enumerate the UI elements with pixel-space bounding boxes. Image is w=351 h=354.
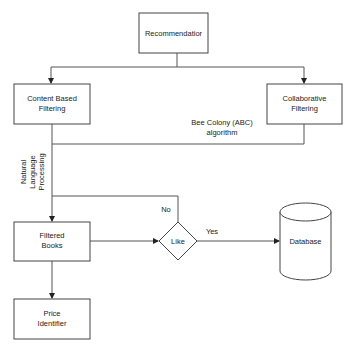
edge-label-nlp-line3: Processing <box>37 153 46 190</box>
node-price-identifier-label-line1: Price <box>43 309 60 318</box>
edge-label-abc: Bee Colony (ABC) algorithm <box>191 118 253 137</box>
node-filtered-books-label-line2: Books <box>42 241 63 250</box>
node-collaborative-label-line1: Collaborative <box>283 94 327 103</box>
edge-label-abc-line2: algorithm <box>207 128 238 137</box>
node-database-label: Database <box>289 237 321 246</box>
node-filtered-books-label-line1: Filtered <box>39 231 64 240</box>
edge-collaborative-to-merge <box>52 124 304 144</box>
node-collaborative-filtering[interactable]: Collaborative Filtering <box>267 84 342 124</box>
edge-label-abc-line1: Bee Colony (ABC) <box>191 118 253 127</box>
node-recommendation-label: Recommendatior <box>145 29 203 38</box>
node-price-identifier-label-line2: Identifier <box>38 319 67 328</box>
node-filtered-books[interactable]: Filtered Books <box>14 222 90 261</box>
edge-label-nlp: Natural Language Processing <box>19 153 46 190</box>
node-like-label: Like <box>171 237 185 246</box>
node-price-identifier[interactable]: Price Identifier <box>14 299 90 339</box>
node-database[interactable]: Database <box>280 203 331 280</box>
node-like-decision[interactable]: Like <box>159 222 197 260</box>
edge-label-yes: Yes <box>206 227 218 236</box>
flowchart-canvas: Recommendatior Content Based Filtering C… <box>0 0 351 354</box>
node-content-based-filtering[interactable]: Content Based Filtering <box>14 84 90 124</box>
edge-like-no-loop <box>52 196 178 222</box>
node-content-based-label-line2: Filtering <box>39 104 66 113</box>
node-content-based-label-line1: Content Based <box>27 94 77 103</box>
edge-label-nlp-line2: Language <box>28 155 37 188</box>
edge-label-no: No <box>161 205 171 214</box>
node-collaborative-label-line2: Filtering <box>291 104 318 113</box>
edge-label-nlp-line1: Natural <box>19 160 28 185</box>
node-recommendation[interactable]: Recommendatior <box>139 13 208 53</box>
